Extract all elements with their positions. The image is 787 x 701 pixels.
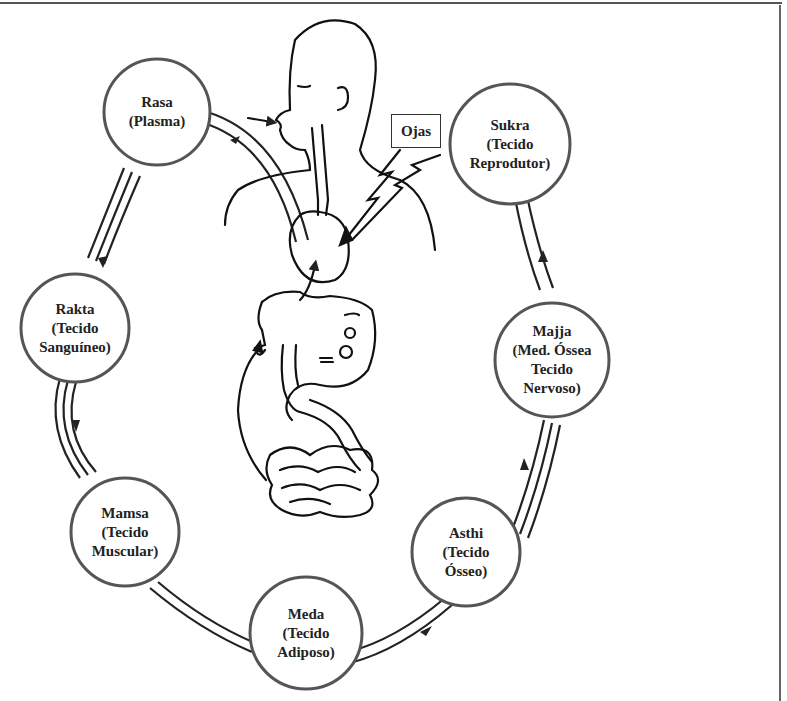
node-sukra-name: Sukra	[470, 116, 551, 135]
node-majja-name: Majja	[512, 322, 591, 341]
node-meda-name: Meda	[277, 605, 335, 624]
node-rakta: Rakta (Tecido Sanguíneo)	[39, 300, 111, 357]
node-rasa-desc: (Plasma)	[129, 112, 186, 131]
node-rakta-desc-2: Sanguíneo)	[39, 338, 111, 357]
node-asthi-name: Asthi	[443, 524, 490, 543]
node-asthi-desc-1: (Tecido	[443, 543, 490, 562]
node-meda-desc-2: Adiposo)	[277, 643, 335, 662]
human-figure	[225, 20, 440, 517]
node-rakta-desc-1: (Tecido	[39, 319, 111, 338]
node-mamsa-desc-2: Muscular)	[92, 542, 159, 561]
node-meda-desc-1: (Tecido	[277, 624, 335, 643]
ojas-label-box: Ojas	[391, 114, 441, 148]
node-mamsa-name: Mamsa	[92, 504, 159, 523]
node-mamsa-desc-1: (Tecido	[92, 523, 159, 542]
node-majja: Majja (Med. Óssea Tecido Nervoso)	[512, 322, 591, 398]
ojas-label: Ojas	[401, 123, 431, 140]
node-majja-desc-3: Nervoso)	[512, 379, 591, 398]
node-asthi: Asthi (Tecido Ósseo)	[443, 524, 490, 581]
node-sukra-desc-1: (Tecido	[470, 135, 551, 154]
node-mamsa: Mamsa (Tecido Muscular)	[92, 504, 159, 561]
node-sukra-desc-2: Reprodutor)	[470, 154, 551, 173]
node-sukra: Sukra (Tecido Reprodutor)	[470, 116, 551, 173]
node-majja-desc-1: (Med. Óssea	[512, 341, 591, 360]
node-rakta-name: Rakta	[39, 300, 111, 319]
node-rasa: Rasa (Plasma)	[129, 93, 186, 131]
dhatu-cycle-diagram	[0, 0, 787, 701]
node-rasa-name: Rasa	[129, 93, 186, 112]
node-meda: Meda (Tecido Adiposo)	[277, 605, 335, 662]
node-asthi-desc-2: Ósseo)	[443, 562, 490, 581]
node-majja-desc-2: Tecido	[512, 360, 591, 379]
